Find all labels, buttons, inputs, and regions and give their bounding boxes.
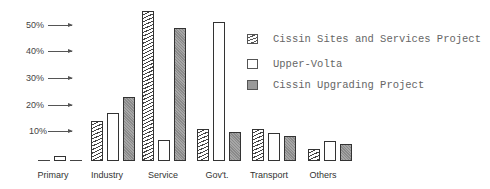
bar-industry-series-1 [107, 113, 119, 161]
bar-others-series-2 [340, 144, 352, 161]
legend-item: Upper-Volta [247, 58, 342, 70]
y-tick-label: 40% [26, 46, 44, 56]
legend-label: Cissin Sites and Services Project [273, 33, 481, 45]
x-tick-label: Industry [77, 170, 137, 180]
bar-service-series-1 [158, 140, 170, 161]
legend-item: Cissin Upgrading Project [247, 79, 424, 91]
x-tick-label: Primary [23, 170, 83, 180]
bar-service-series-0 [142, 11, 154, 161]
white-swatch-icon [247, 59, 258, 69]
x-tick-label: Service [133, 170, 193, 180]
bar-chart: 10%20%30%40%50% PrimaryIndustryServiceGo… [0, 0, 490, 189]
legend-label: Upper-Volta [273, 58, 342, 70]
arrow-icon [48, 131, 72, 132]
bar-govt-series-0 [197, 129, 209, 161]
y-tick-label: 30% [26, 73, 44, 83]
arrow-icon [48, 78, 72, 79]
bar-industry-series-0 [91, 121, 103, 161]
legend-item: Cissin Sites and Services Project [247, 33, 481, 45]
bar-service-series-2 [174, 28, 186, 162]
bar-transport-series-0 [252, 129, 264, 161]
x-tick-label: Others [293, 170, 353, 180]
x-tick-label: Gov't. [187, 170, 247, 180]
x-tick-label: Transport [239, 170, 299, 180]
bar-primary-series-1 [54, 156, 66, 161]
y-tick-label: 10% [29, 126, 47, 136]
bar-others-series-1 [324, 141, 336, 161]
bar-govt-series-2 [229, 132, 241, 161]
bar-govt-series-1 [213, 22, 225, 161]
hatched-swatch-icon [247, 34, 258, 44]
arrow-icon [48, 25, 72, 26]
y-tick-label: 50% [26, 20, 44, 30]
y-tick-label: 20% [26, 100, 44, 110]
bar-primary-series-2 [70, 160, 82, 161]
arrow-icon [48, 105, 72, 106]
bar-primary-series-0 [38, 160, 50, 161]
arrow-icon [48, 51, 72, 52]
bar-transport-series-2 [284, 136, 296, 161]
bar-transport-series-1 [268, 133, 280, 161]
legend-label: Cissin Upgrading Project [273, 79, 424, 91]
bar-others-series-0 [308, 149, 320, 161]
bar-industry-series-2 [123, 97, 135, 161]
gray-swatch-icon [247, 80, 258, 90]
